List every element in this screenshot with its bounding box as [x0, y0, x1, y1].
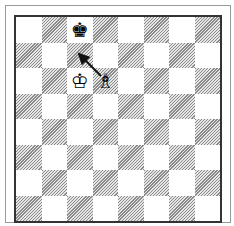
- square-e5: [118, 94, 144, 120]
- square-a5: [16, 94, 42, 120]
- square-d4: [93, 119, 119, 145]
- square-e4: [118, 119, 144, 145]
- square-f2: [144, 170, 170, 196]
- square-h1: [195, 196, 221, 222]
- square-a6: [16, 68, 42, 94]
- square-h2: [195, 170, 221, 196]
- square-g2: [169, 170, 195, 196]
- square-f6: [144, 68, 170, 94]
- chess-board: ♚♔♗: [14, 15, 222, 223]
- square-g1: [169, 196, 195, 222]
- square-f8: [144, 17, 170, 43]
- square-g5: [169, 94, 195, 120]
- square-b6: [42, 68, 68, 94]
- square-d5: [93, 94, 119, 120]
- square-d2: [93, 170, 119, 196]
- square-e1: [118, 196, 144, 222]
- square-g3: [169, 145, 195, 171]
- square-b7: [42, 43, 68, 69]
- square-h7: [195, 43, 221, 69]
- square-g6: [169, 68, 195, 94]
- square-c3: [67, 145, 93, 171]
- square-d1: [93, 196, 119, 222]
- square-g8: [169, 17, 195, 43]
- square-a1: [16, 196, 42, 222]
- square-f7: [144, 43, 170, 69]
- square-h6: [195, 68, 221, 94]
- square-e8: [118, 17, 144, 43]
- square-d7: [93, 43, 119, 69]
- square-a8: [16, 17, 42, 43]
- square-d8: [93, 17, 119, 43]
- square-c2: [67, 170, 93, 196]
- square-a3: [16, 145, 42, 171]
- square-a4: [16, 119, 42, 145]
- square-c1: [67, 196, 93, 222]
- white-king-icon: ♔: [67, 68, 93, 94]
- white-bishop-icon: ♗: [93, 68, 119, 94]
- square-e3: [118, 145, 144, 171]
- square-e7: [118, 43, 144, 69]
- square-f5: [144, 94, 170, 120]
- square-e6: [118, 68, 144, 94]
- square-d3: [93, 145, 119, 171]
- square-d6: ♗: [93, 68, 119, 94]
- square-b8: [42, 17, 68, 43]
- square-b2: [42, 170, 68, 196]
- square-a7: [16, 43, 42, 69]
- black-king-icon: ♚: [67, 17, 93, 43]
- square-b4: [42, 119, 68, 145]
- square-h4: [195, 119, 221, 145]
- square-c6: ♔: [67, 68, 93, 94]
- square-f1: [144, 196, 170, 222]
- square-b1: [42, 196, 68, 222]
- square-b5: [42, 94, 68, 120]
- square-a2: [16, 170, 42, 196]
- square-h8: [195, 17, 221, 43]
- square-b3: [42, 145, 68, 171]
- square-c8: ♚: [67, 17, 93, 43]
- square-f3: [144, 145, 170, 171]
- square-c5: [67, 94, 93, 120]
- square-g4: [169, 119, 195, 145]
- square-f4: [144, 119, 170, 145]
- square-c7: [67, 43, 93, 69]
- square-e2: [118, 170, 144, 196]
- square-h3: [195, 145, 221, 171]
- square-h5: [195, 94, 221, 120]
- square-g7: [169, 43, 195, 69]
- square-c4: [67, 119, 93, 145]
